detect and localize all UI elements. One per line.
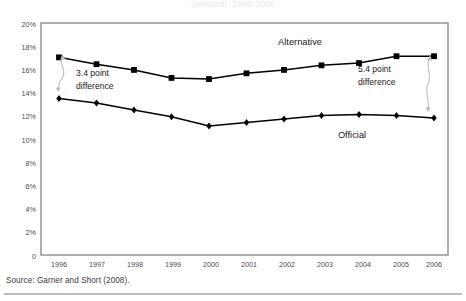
x-tick-label: 2003 — [317, 260, 333, 269]
series-label-official: Official — [338, 130, 366, 140]
y-tick-label: 8% — [26, 159, 37, 168]
data-point-marker — [356, 111, 361, 118]
data-point-marker — [94, 61, 100, 67]
data-point-marker — [431, 53, 437, 59]
data-point-marker — [244, 70, 250, 76]
bottom-divider — [4, 293, 462, 295]
y-tick-label: 2% — [26, 228, 37, 237]
x-tick-label: 2005 — [393, 260, 409, 269]
data-point-marker — [431, 114, 436, 121]
data-point-marker — [56, 95, 61, 102]
y-tick-label: 12% — [22, 112, 37, 121]
y-tick-label: 6% — [26, 182, 37, 191]
data-point-marker — [169, 113, 174, 120]
data-point-marker — [131, 67, 137, 73]
data-point-marker — [131, 106, 136, 113]
y-tick-label: 0 — [32, 252, 36, 261]
series-label-alternative: Alternative — [278, 37, 322, 47]
data-point-marker — [206, 122, 211, 129]
x-tick-label: 2002 — [279, 260, 295, 269]
data-point-marker — [394, 112, 399, 119]
data-point-marker — [281, 67, 287, 73]
source-note: Source: Garner and Short (2008). — [6, 276, 130, 285]
x-tick-label: 1996 — [51, 260, 67, 269]
right-difference-arrowhead-bottom — [425, 107, 430, 112]
x-tick-label: 1999 — [165, 260, 181, 269]
line-chart-plot: 20% 18% 16% 14% 12% 10% 8% 6% 4% 2% 0 19… — [0, 0, 466, 301]
x-tick-label: 2006 — [426, 260, 442, 269]
y-tick-label: 16% — [22, 66, 37, 75]
right-difference-arrow-line — [427, 56, 430, 110]
x-axis-tick-labels: 1996 1997 1998 1999 2000 2001 2002 2003 … — [51, 260, 442, 269]
x-tick-label: 2001 — [241, 260, 257, 269]
y-tick-label: 10% — [22, 136, 37, 145]
x-tick-label: 1997 — [89, 260, 105, 269]
data-point-marker — [319, 112, 324, 119]
right-difference-text-line2: difference — [358, 77, 396, 87]
y-axis-tick-labels: 20% 18% 16% 14% 12% 10% 8% 6% 4% 2% 0 — [22, 20, 37, 261]
data-point-marker — [281, 116, 286, 123]
y-tick-label: 18% — [22, 43, 37, 52]
y-tick-label: 14% — [22, 89, 37, 98]
annotation-right-difference: 5.4 point difference — [358, 56, 432, 112]
chart-figure: (percent), 1996-2006 20% 18% 16% 14% 12%… — [0, 0, 466, 301]
data-point-marker — [94, 100, 99, 107]
data-point-marker — [244, 119, 249, 126]
annotation-left-difference: 3.4 point difference — [56, 55, 114, 92]
series-official — [56, 95, 436, 129]
x-tick-label: 2004 — [355, 260, 371, 269]
right-difference-text-line1: 5.4 point — [358, 64, 392, 74]
x-tick-label: 1998 — [127, 260, 143, 269]
left-difference-text-line1: 3.4 point — [76, 68, 110, 78]
data-point-marker — [169, 75, 175, 81]
left-difference-text-line2: difference — [76, 81, 114, 91]
data-point-marker — [319, 62, 325, 68]
y-tick-label: 20% — [22, 20, 37, 29]
data-point-marker — [394, 53, 400, 59]
x-tick-label: 2000 — [203, 260, 219, 269]
left-difference-arrowhead-bottom — [56, 87, 61, 92]
data-point-marker — [206, 76, 212, 82]
y-tick-label: 4% — [26, 205, 37, 214]
